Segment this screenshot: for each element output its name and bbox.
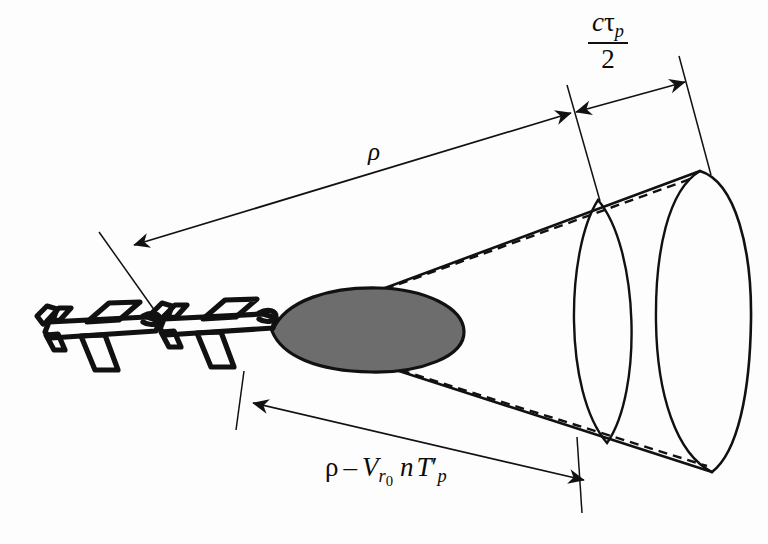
- minus-sign: –: [338, 452, 362, 482]
- rho-symbol: ρ: [325, 452, 338, 482]
- pulse-period-subscript-p: p: [437, 466, 446, 486]
- pulse-length-numerator: cτp: [588, 8, 628, 44]
- vertical-stabilizer: [152, 303, 172, 321]
- tau-subscript-p: p: [615, 21, 624, 41]
- displaced-extension-line-left: [236, 371, 244, 430]
- cone-cap-front-curve: [656, 171, 712, 472]
- figure-root: ρ cτp 2 ρ–Vr0nT′p: [0, 0, 768, 544]
- pulse-length-label: cτp 2: [588, 8, 628, 73]
- pulse-count-symbol: n: [393, 452, 414, 482]
- aircraft-lead-front: [152, 299, 276, 367]
- range-dimension-line: [134, 113, 571, 245]
- vertical-stabilizer: [37, 306, 57, 324]
- resolution-volume-lobe: [272, 288, 464, 372]
- range-extension-line-right: [567, 85, 600, 201]
- displaced-range-label: ρ–Vr0nT′p: [325, 452, 447, 490]
- pulse-dimension-line: [576, 82, 685, 112]
- pulse-length-fraction: cτp 2: [588, 8, 628, 73]
- pulse-extension-line-right: [679, 56, 711, 175]
- pulse-length-denominator: 2: [588, 44, 628, 73]
- velocity-subscript-zero: 0: [386, 473, 393, 489]
- cone-inner-ellipse: [574, 200, 632, 443]
- wing-lower: [197, 332, 234, 367]
- speed-of-light-symbol: c: [592, 7, 604, 37]
- pulse-period-symbol: T: [413, 452, 431, 482]
- dimension-displaced-range: [236, 371, 584, 513]
- displaced-extension-line-right: [577, 437, 582, 513]
- velocity-subscript-r: r0: [378, 466, 393, 486]
- radial-velocity-symbol: V: [362, 452, 379, 482]
- wing-lower: [81, 335, 118, 370]
- range-rho-label: ρ: [368, 138, 380, 166]
- cone-cap-outer-curve: [700, 171, 751, 472]
- dimension-pulse-length: [576, 56, 711, 175]
- tau-symbol: τ: [604, 7, 615, 37]
- dimension-range-rho: [99, 85, 600, 318]
- aircraft-ghost-rear: [37, 302, 160, 370]
